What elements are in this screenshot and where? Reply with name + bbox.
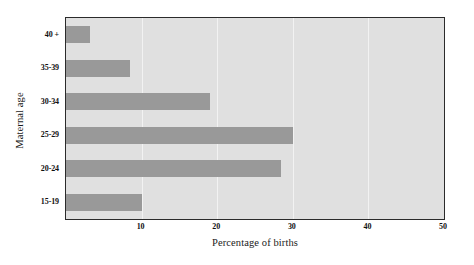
bar-20-24 <box>66 160 281 177</box>
gridline <box>368 18 369 219</box>
x-tick-label: 30 <box>288 222 296 231</box>
bar-40 <box>66 26 90 43</box>
bar-15-19 <box>66 194 142 211</box>
y-tick-label: 25-29 <box>41 130 59 139</box>
gridline <box>293 18 294 219</box>
x-axis-title: Percentage of births <box>65 237 445 248</box>
gridline <box>217 18 218 219</box>
x-tick-label: 50 <box>439 222 447 231</box>
plot-area <box>65 17 445 220</box>
y-axis-tick-labels: 15-1920-2425-2930-3435-3940 + <box>30 17 63 220</box>
bar-35-39 <box>66 60 130 77</box>
x-tick-label: 40 <box>363 222 371 231</box>
bar-chart-figure: Maternal age 15-1920-2425-2930-3435-3940… <box>0 0 474 265</box>
x-axis-tick-labels: 1020304050 <box>65 222 445 236</box>
gridline <box>142 18 143 219</box>
y-axis-title: Maternal age <box>10 28 28 213</box>
bar-25-29 <box>66 127 293 144</box>
y-tick-label: 15-19 <box>41 197 59 206</box>
y-tick-label: 20-24 <box>41 163 59 172</box>
y-tick-label: 30-34 <box>41 96 59 105</box>
x-tick-label: 10 <box>137 222 145 231</box>
y-tick-label: 35-39 <box>41 63 59 72</box>
bar-30-34 <box>66 93 210 110</box>
y-tick-label: 40 + <box>45 29 59 38</box>
x-tick-label: 20 <box>212 222 220 231</box>
y-axis-title-label: Maternal age <box>14 92 25 148</box>
